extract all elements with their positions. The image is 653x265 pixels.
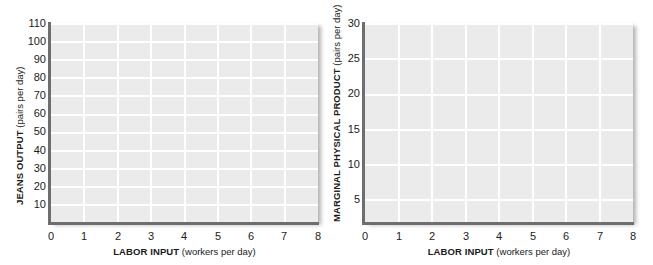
y-tick-label: 100 xyxy=(0,36,46,47)
gridline-v xyxy=(398,23,400,222)
y-axis-line xyxy=(48,22,51,225)
gridline-h xyxy=(365,58,633,60)
gridline-v xyxy=(498,23,500,222)
plot-area-jeans-output xyxy=(51,23,318,222)
x-tick-label: 5 xyxy=(208,231,228,242)
gridline-h xyxy=(51,23,318,25)
gridline-h xyxy=(365,199,633,201)
gridline-v xyxy=(184,23,186,222)
x-axis-line xyxy=(48,222,319,225)
x-tick-label: 1 xyxy=(389,231,409,242)
x-tick-label: 4 xyxy=(489,231,509,242)
gridline-h xyxy=(51,41,318,43)
y-axis-title-main: MARGINAL PHYSICAL PRODUCT xyxy=(331,68,342,222)
plot-frame-marginal-physical-product xyxy=(365,23,633,222)
y-tick-label: 110 xyxy=(0,18,46,29)
x-tick-label: 3 xyxy=(456,231,476,242)
gridline-v xyxy=(465,23,467,222)
x-tick-label: 3 xyxy=(141,231,161,242)
chart-panel-marginal-physical-product: 30 25 20 15 10 5 0 1 2 3 4 5 6 7 8 MARGI… xyxy=(330,0,653,265)
gridline-v xyxy=(599,23,601,222)
x-axis-title: LABOR INPUT (workers per day) xyxy=(51,247,318,257)
gridline-h xyxy=(51,77,318,79)
x-axis-title-main: LABOR INPUT xyxy=(428,246,494,257)
gridline-v xyxy=(217,23,219,222)
gridline-h xyxy=(51,132,318,134)
x-tick-label: 0 xyxy=(41,231,61,242)
x-axis-title-unit: (workers per day) xyxy=(182,246,256,257)
y-axis-title-main: JEANS OUTPUT xyxy=(14,130,25,205)
x-tick-label: 7 xyxy=(590,231,610,242)
gridline-v xyxy=(83,23,85,222)
gridline-h xyxy=(51,168,318,170)
gridline-h xyxy=(365,164,633,166)
x-axis-line xyxy=(362,222,634,225)
x-tick-label: 6 xyxy=(556,231,576,242)
x-axis-title-unit: (workers per day) xyxy=(496,246,570,257)
gridline-h xyxy=(51,95,318,97)
y-axis-title-unit: (pairs per day) xyxy=(331,4,342,65)
gridline-h xyxy=(365,23,633,25)
y-axis-title: JEANS OUTPUT (pairs per day) xyxy=(15,67,25,205)
gridline-h xyxy=(51,59,318,61)
x-tick-label: 5 xyxy=(523,231,543,242)
gridline-h xyxy=(365,94,633,96)
gridline-v xyxy=(150,23,152,222)
x-tick-label: 4 xyxy=(174,231,194,242)
two-panel-grid-figure: 110 100 90 80 70 60 50 40 30 20 10 0 1 2… xyxy=(0,0,653,265)
gridline-v xyxy=(250,23,252,222)
y-tick-label: 90 xyxy=(0,54,46,65)
x-tick-label: 1 xyxy=(74,231,94,242)
x-tick-label: 2 xyxy=(108,231,128,242)
x-tick-label: 7 xyxy=(274,231,294,242)
x-tick-label: 8 xyxy=(308,231,328,242)
plot-frame-jeans-output xyxy=(51,23,318,222)
y-axis-line xyxy=(362,22,365,225)
plot-area-marginal-physical-product xyxy=(365,23,633,222)
y-axis-title: MARGINAL PHYSICAL PRODUCT (pairs per day… xyxy=(332,4,342,222)
gridline-h xyxy=(51,204,318,206)
x-tick-label: 8 xyxy=(623,231,643,242)
gridline-h xyxy=(51,186,318,188)
chart-panel-jeans-output: 110 100 90 80 70 60 50 40 30 20 10 0 1 2… xyxy=(0,0,330,265)
gridline-v xyxy=(431,23,433,222)
x-tick-label: 0 xyxy=(355,231,375,242)
x-tick-label: 2 xyxy=(422,231,442,242)
gridline-h xyxy=(51,114,318,116)
x-tick-label: 6 xyxy=(241,231,261,242)
x-axis-title: LABOR INPUT (workers per day) xyxy=(365,247,633,257)
gridline-h xyxy=(365,129,633,131)
gridline-h xyxy=(51,150,318,152)
gridline-v xyxy=(532,23,534,222)
gridline-v xyxy=(117,23,119,222)
gridline-v xyxy=(565,23,567,222)
x-axis-title-main: LABOR INPUT xyxy=(113,246,179,257)
y-axis-title-unit: (pairs per day) xyxy=(14,67,25,128)
gridline-v xyxy=(284,23,286,222)
